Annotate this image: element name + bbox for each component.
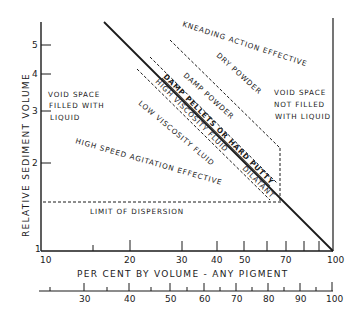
- lower-scale: 30 40 50 60 70 80 90 100: [39, 282, 343, 304]
- x-tick-20: 20: [124, 255, 136, 265]
- lower-tick-80: 80: [263, 294, 275, 304]
- void-not-filled-line-1: VOID SPACE: [274, 88, 326, 97]
- lower-tick-100: 100: [326, 294, 343, 304]
- x-axis-title: PER CENT BY VOLUME - ANY PIGMENT: [77, 269, 289, 279]
- void-not-filled-line-2: NOT FILLED: [274, 100, 325, 109]
- lower-tick-40: 40: [124, 294, 136, 304]
- lower-tick-30: 30: [79, 294, 91, 304]
- y-axis-title: RELATIVE SEDIMENT VOLUME: [21, 73, 31, 237]
- dry-powder-label: DRY POWDER: [215, 51, 264, 96]
- lower-tick-90: 90: [295, 294, 307, 304]
- high-speed-label: HIGH SPEED AGITATION EFFECTIVE: [74, 136, 223, 187]
- sediment-volume-diagram: 5 4 3 2 1 RELATIVE SEDIMENT VOLUME 10 20…: [0, 0, 360, 317]
- x-tick-10: 10: [40, 255, 52, 265]
- y-tick-3: 3: [32, 106, 38, 116]
- y-tick-1: 1: [35, 244, 41, 254]
- x-tick-40: 40: [211, 255, 223, 265]
- x-tick-50: 50: [239, 255, 251, 265]
- void-filled-line-1: VOID SPACE: [48, 90, 100, 99]
- lower-tick-60: 60: [199, 294, 211, 304]
- kneading-label: KNEADING ACTION EFFECTIVE: [181, 19, 308, 68]
- lower-tick-50: 50: [165, 294, 177, 304]
- void-not-filled-line-3: WITH LIQUID: [275, 112, 331, 121]
- y-tick-4: 4: [32, 69, 38, 79]
- void-filled-line-3: LIQUID: [50, 113, 80, 122]
- y-tick-5: 5: [32, 40, 38, 50]
- void-filled-line-2: FILLED WITH: [49, 101, 105, 110]
- limit-of-dispersion-label: LIMIT OF DISPERSION: [90, 207, 184, 216]
- y-tick-2: 2: [32, 158, 38, 168]
- lower-tick-70: 70: [231, 294, 243, 304]
- x-tick-100: 100: [327, 255, 344, 265]
- x-tick-30: 30: [176, 255, 188, 265]
- x-ticks: 10 20 30 40 50 70 100: [40, 240, 344, 265]
- x-tick-70: 70: [280, 255, 292, 265]
